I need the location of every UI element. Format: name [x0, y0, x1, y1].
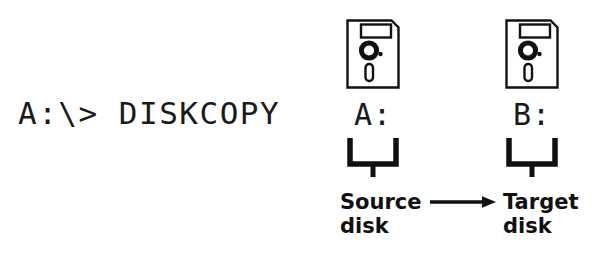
- caption-source-line2: disk: [340, 214, 432, 238]
- drive-label-source: A:: [346, 100, 400, 130]
- floppy-disk-icon: [346, 19, 400, 89]
- caption-source: Source disk: [340, 190, 432, 238]
- drive-label-target: B:: [505, 100, 559, 130]
- command-prompt-text: A:\> DISKCOPY: [18, 98, 280, 129]
- floppy-disk-icon: [505, 19, 559, 89]
- caption-source-line1: Source: [340, 190, 422, 214]
- target-brace: [505, 138, 559, 178]
- diskcopy-diagram: A:\> DISKCOPY A: Source disk: [0, 0, 609, 253]
- caption-target-line2: disk: [503, 214, 595, 238]
- right-arrow-icon: [428, 192, 498, 212]
- caption-target-line1: Target: [503, 190, 578, 214]
- caption-target: Target disk: [503, 190, 595, 238]
- source-brace: [346, 138, 400, 178]
